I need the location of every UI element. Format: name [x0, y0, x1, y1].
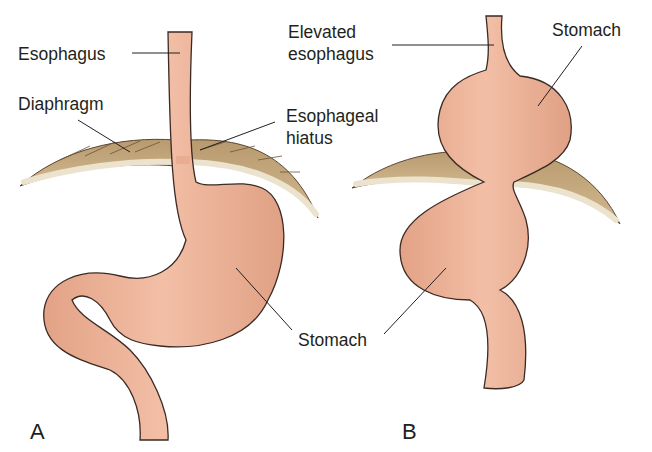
label-esophageal-hiatus-line2: hiatus: [286, 128, 333, 148]
panel-letter-b: B: [402, 420, 417, 444]
panel-letter-a: A: [30, 420, 45, 444]
label-esophageal-hiatus-line1: Esophageal: [286, 106, 378, 126]
panel-b-drawing: [352, 16, 620, 389]
label-stomach-b: Stomach: [552, 20, 621, 40]
stomach-b: [400, 16, 571, 389]
label-elevated-esophagus-line1: Elevated: [288, 22, 356, 42]
label-stomach-a: Stomach: [298, 330, 367, 350]
label-elevated-esophagus-line2: esophagus: [288, 44, 374, 64]
label-diaphragm: Diaphragm: [18, 94, 104, 114]
anatomy-illustration: [0, 0, 652, 452]
label-esophagus: Esophagus: [18, 44, 106, 64]
